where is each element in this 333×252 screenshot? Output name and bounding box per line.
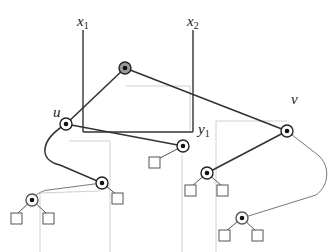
tree-node: [201, 167, 213, 179]
root-node: [119, 62, 131, 74]
leaves: [11, 157, 263, 241]
node-u-label: u: [53, 105, 61, 120]
node-u: [60, 118, 72, 130]
leaf-square: [252, 230, 263, 241]
x2-label: x2: [187, 14, 199, 31]
leaf-square: [185, 185, 196, 196]
guide-lines: [40, 86, 287, 252]
axes-lines: [83, 30, 193, 132]
node-v: [281, 125, 293, 137]
leaf-square: [11, 213, 22, 224]
node-v-label: v: [291, 92, 298, 107]
leaf-square: [43, 213, 54, 224]
y1-label: y1: [198, 122, 210, 139]
tree-node: [236, 212, 248, 224]
tree-node: [177, 140, 189, 152]
leaf-square: [217, 185, 228, 196]
x1-label: x1: [77, 14, 89, 31]
edges-dark: [45, 68, 287, 183]
leaf-square: [219, 230, 230, 241]
tree-diagram: [0, 0, 333, 252]
leaf-square: [112, 193, 123, 204]
tree-node: [26, 194, 38, 206]
tree-node: [96, 177, 108, 189]
leaf-square: [149, 157, 160, 168]
